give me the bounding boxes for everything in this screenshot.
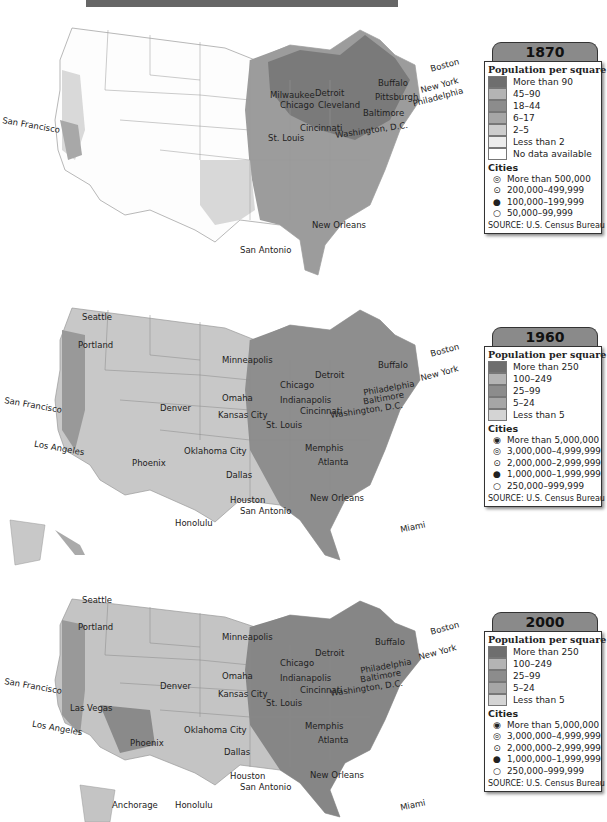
city-label-detroit: Detroit: [315, 648, 344, 658]
city-label-honolulu: Honolulu: [175, 800, 213, 810]
swatch: [488, 124, 507, 136]
city-label-minneapolis: Minneapolis: [222, 355, 273, 365]
city-legend-row: ◉More than 5,000,000: [488, 434, 598, 446]
city-symbol-icon: ●: [490, 469, 504, 479]
legend-label: More than 250: [513, 647, 579, 657]
cities-heading: Cities: [488, 708, 598, 719]
legend-row: 100–249: [488, 658, 598, 670]
city-symbol-icon: ◎: [490, 446, 504, 456]
swatch: [488, 409, 507, 421]
city-label-omaha: Omaha: [222, 393, 253, 403]
city-legend-row: ●1,000,000–1,999,999: [488, 754, 598, 766]
city-label-phoenix: Phoenix: [132, 458, 166, 468]
legend-year-tab: 1870: [492, 42, 598, 61]
city-label-new-orleans: New Orleans: [310, 493, 364, 503]
legend-row: 25–99: [488, 385, 598, 397]
city-label-chicago: Chicago: [280, 658, 314, 668]
city-legend-row: ○50,000–99,999: [488, 208, 598, 220]
city-legend-row: ◎More than 500,000: [488, 173, 598, 185]
city-legend-label: 50,000–99,999: [507, 208, 573, 218]
legend-row: 5–24: [488, 397, 598, 409]
city-label-san-antonio: San Antonio: [240, 782, 291, 792]
city-label-cleveland: Cleveland: [318, 100, 360, 110]
city-symbol-icon: ○: [490, 481, 504, 491]
legend-label: Less than 5: [513, 410, 565, 420]
city-legend-row: ⊙2,000,000–2,999,999: [488, 457, 598, 469]
city-legend-label: 2,000,000–2,999,999: [507, 743, 601, 753]
city-symbol-icon: ○: [490, 208, 504, 218]
legend-2000: 2000 Population per square mile More tha…: [484, 612, 602, 792]
legend-1870: 1870 Population per square mile More tha…: [484, 42, 602, 234]
source-note: SOURCE: U.S. Census Bureau: [488, 494, 598, 503]
legend-box: Population per square mile More than 250…: [484, 631, 602, 792]
city-legend-label: 1,000,000–1,999,999: [507, 469, 601, 479]
legend-heading: Population per square mile: [488, 64, 598, 75]
city-label-st-louis: St. Louis: [266, 420, 302, 430]
swatch: [488, 88, 507, 100]
city-label-phoenix: Phoenix: [130, 738, 164, 748]
city-symbol-icon: ●: [490, 754, 504, 764]
city-label-san-antonio: San Antonio: [240, 506, 291, 516]
city-label-buffalo: Buffalo: [378, 360, 408, 370]
legend-row: 6–17: [488, 112, 598, 124]
legend-row: More than 90: [488, 76, 598, 88]
city-symbol-icon: ◉: [490, 720, 504, 730]
legend-label: 18–44: [513, 101, 540, 111]
city-label-dallas: Dallas: [224, 747, 250, 757]
cities-heading: Cities: [488, 162, 598, 173]
swatch: [488, 682, 507, 694]
swatch: [488, 136, 507, 148]
city-symbol-icon: ⊙: [490, 185, 504, 195]
cities-heading: Cities: [488, 423, 598, 434]
city-label-omaha: Omaha: [222, 671, 253, 681]
city-legend-label: 3,000,000–4,999,999: [507, 731, 601, 741]
legend-box: Population per square mile More than 250…: [484, 346, 602, 507]
legend-label: No data available: [513, 149, 592, 159]
city-legend-row: ●100,000–199,999: [488, 196, 598, 208]
city-symbol-icon: ●: [490, 197, 504, 207]
city-label-denver: Denver: [160, 681, 191, 691]
city-label-portland: Portland: [78, 340, 113, 350]
city-legend-label: 200,000–499,999: [507, 185, 584, 195]
legend-row: 18–44: [488, 100, 598, 112]
city-label-denver: Denver: [160, 403, 191, 413]
source-note: SOURCE: U.S. Census Bureau: [488, 779, 598, 788]
legend-row: 100–249: [488, 373, 598, 385]
city-legend-label: More than 500,000: [507, 174, 591, 184]
city-legend-row: ⊙200,000–499,999: [488, 185, 598, 197]
city-label-minneapolis: Minneapolis: [222, 632, 273, 642]
legend-row: 2–5: [488, 124, 598, 136]
city-label-atlanta: Atlanta: [318, 457, 349, 467]
swatch: [488, 397, 507, 409]
city-symbol-icon: ○: [490, 766, 504, 776]
legend-label: 6–17: [513, 113, 535, 123]
city-label-atlanta: Atlanta: [318, 735, 349, 745]
city-label-honolulu: Honolulu: [175, 518, 213, 528]
city-label-memphis: Memphis: [305, 721, 343, 731]
city-label-houston: Houston: [230, 495, 265, 505]
legend-label: 25–99: [513, 671, 540, 681]
swatch: [488, 694, 507, 706]
city-legend-row: ○250,000–999,999: [488, 480, 598, 492]
legend-label: 45–90: [513, 89, 540, 99]
city-label-san-antonio: San Antonio: [240, 245, 291, 255]
city-label-memphis: Memphis: [305, 443, 343, 453]
city-label-st-louis: St. Louis: [266, 698, 302, 708]
city-label-kansas-city: Kansas City: [218, 689, 267, 699]
legend-label: 5–24: [513, 683, 535, 693]
legend-label: More than 90: [513, 77, 573, 87]
legend-year-tab: 1960: [492, 327, 598, 346]
legend-label: 100–249: [513, 374, 552, 384]
legend-row: 25–99: [488, 670, 598, 682]
source-note: SOURCE: U.S. Census Bureau: [488, 221, 598, 230]
city-symbol-icon: ⊙: [490, 458, 504, 468]
city-legend-label: 100,000–199,999: [507, 197, 584, 207]
city-label-oklahoma-city: Oklahoma City: [184, 725, 247, 735]
city-label-st-louis: St. Louis: [268, 133, 304, 143]
legend-row: Less than 5: [488, 409, 598, 421]
swatch: [488, 385, 507, 397]
city-legend-row: ◎3,000,000–4,999,999: [488, 446, 598, 458]
legend-row: More than 250: [488, 646, 598, 658]
city-label-cincinnati: Cincinnati: [300, 123, 342, 133]
city-label-dallas: Dallas: [226, 470, 252, 480]
